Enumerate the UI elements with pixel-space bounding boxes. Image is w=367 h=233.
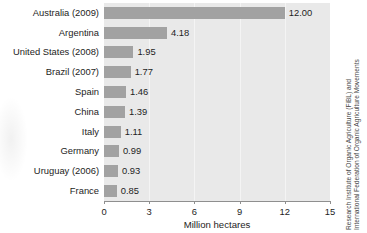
bar-group: 0.93	[104, 165, 140, 177]
bar-chart-figure: Australia (2009) 12.00 Argentina 4.18 Un…	[0, 0, 367, 233]
bar-value-label: 1.46	[130, 87, 148, 97]
bar-rows: Australia (2009) 12.00 Argentina 4.18 Un…	[0, 3, 367, 201]
bar-group: 4.18	[104, 27, 189, 39]
bar-group: 0.85	[104, 185, 139, 197]
bar-group: 1.95	[104, 46, 156, 58]
x-tick-mark	[240, 201, 241, 204]
x-tick-mark	[285, 201, 286, 204]
source-credit-line-2: International Federation of Organic Agri…	[353, 4, 361, 230]
x-tick-label: 12	[280, 206, 290, 217]
category-label: France	[0, 186, 99, 196]
bar	[104, 126, 121, 138]
bar	[104, 165, 118, 177]
bar-row: Brazil (2007) 1.77	[0, 62, 367, 82]
bar-value-label: 0.85	[121, 186, 139, 196]
source-credit: Research Institute of Organic Agricultur…	[340, 0, 366, 233]
bar	[104, 7, 285, 19]
bar	[104, 86, 126, 98]
source-credit-line-1: Research Institute of Organic Agricultur…	[345, 4, 353, 230]
x-tick-mark	[194, 201, 195, 204]
bar-value-label: 4.18	[171, 28, 189, 38]
x-tick-label: 6	[192, 206, 197, 217]
bar-row: France 0.85	[0, 181, 367, 201]
bar-row: Uruguay (2006) 0.93	[0, 161, 367, 181]
category-label: United States (2008)	[0, 47, 99, 57]
bar-row: Spain 1.46	[0, 82, 367, 102]
bar-value-label: 0.93	[122, 166, 140, 176]
category-label: Argentina	[0, 28, 99, 38]
bar-group: 1.77	[104, 66, 153, 78]
bar-row: Argentina 4.18	[0, 23, 367, 43]
bar-value-label: 12.00	[289, 8, 312, 18]
bar-group: 1.11	[104, 126, 142, 138]
x-tick-mark	[104, 201, 105, 204]
x-tick-mark	[149, 201, 150, 204]
category-label: Germany	[0, 146, 99, 156]
bar	[104, 46, 133, 58]
bar-row: United States (2008) 1.95	[0, 43, 367, 63]
bar-group: 1.46	[104, 86, 148, 98]
x-tick-label: 3	[147, 206, 152, 217]
bar	[104, 66, 131, 78]
bar-row: Australia (2009) 12.00	[0, 3, 367, 23]
bar-group: 0.99	[104, 145, 141, 157]
x-axis-line	[104, 201, 330, 202]
category-label: Australia (2009)	[0, 8, 99, 18]
bar-value-label: 1.11	[125, 127, 143, 137]
bar-value-label: 0.99	[123, 146, 141, 156]
x-tick-label: 0	[101, 206, 106, 217]
bar-value-label: 1.39	[129, 107, 147, 117]
bar	[104, 185, 117, 197]
bar-row: China 1.39	[0, 102, 367, 122]
category-label: Uruguay (2006)	[0, 166, 99, 176]
bar-row: Italy 1.11	[0, 122, 367, 142]
x-tick-mark	[330, 201, 331, 204]
bar	[104, 27, 167, 39]
category-label: Italy	[0, 127, 99, 137]
bar-value-label: 1.77	[135, 67, 153, 77]
bar	[104, 106, 125, 118]
bar-group: 12.00	[104, 7, 312, 19]
category-label: Brazil (2007)	[0, 67, 99, 77]
bar-value-label: 1.95	[137, 47, 155, 57]
category-label: China	[0, 107, 99, 117]
bar-group: 1.39	[104, 106, 147, 118]
category-label: Spain	[0, 87, 99, 97]
x-tick-label: 9	[237, 206, 242, 217]
bar-row: Germany 0.99	[0, 142, 367, 162]
bar	[104, 145, 119, 157]
x-axis-title: Million hectares	[104, 219, 330, 230]
x-tick-label: 15	[325, 206, 335, 217]
